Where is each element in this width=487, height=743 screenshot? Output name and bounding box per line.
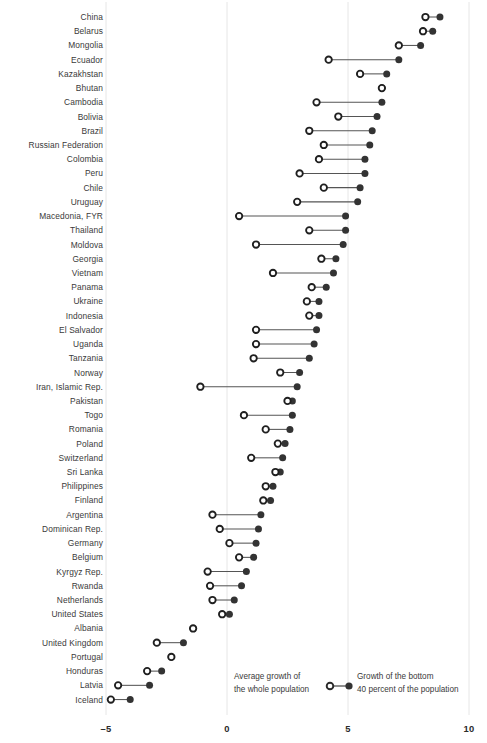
bottom40-growth-marker xyxy=(306,355,313,362)
average-growth-marker xyxy=(248,455,254,461)
category-label: Uganda xyxy=(73,339,103,349)
bottom40-growth-marker xyxy=(374,113,381,120)
category-label: Moldova xyxy=(71,240,103,250)
category-label: Vietnam xyxy=(72,268,103,278)
data-row xyxy=(144,668,165,675)
bottom40-growth-marker xyxy=(243,568,250,575)
bottom40-growth-marker xyxy=(357,184,364,191)
data-row xyxy=(277,369,303,376)
average-growth-marker xyxy=(190,625,196,631)
bottom40-growth-marker xyxy=(180,639,187,646)
data-row xyxy=(115,682,153,689)
data-row xyxy=(313,99,385,106)
legend-marker-group xyxy=(327,682,353,689)
data-row xyxy=(154,639,187,646)
category-label: Peru xyxy=(85,168,103,178)
category-label: Chile xyxy=(83,183,103,193)
bottom40-growth-marker xyxy=(294,383,301,390)
data-row xyxy=(309,284,330,291)
category-label: China xyxy=(81,12,103,22)
bottom40-growth-marker xyxy=(238,582,245,589)
average-growth-marker xyxy=(250,355,256,361)
data-row xyxy=(241,412,296,419)
data-row xyxy=(306,312,322,319)
average-growth-marker xyxy=(284,398,290,404)
bottom40-growth-marker xyxy=(383,70,390,77)
category-label: United States xyxy=(51,609,103,619)
average-growth-marker xyxy=(420,28,426,34)
category-label: Brazil xyxy=(81,126,103,136)
category-label: Belarus xyxy=(74,26,103,36)
category-label: Norway xyxy=(74,368,103,378)
category-label: El Salvador xyxy=(59,325,103,335)
bottom40-growth-marker xyxy=(267,497,274,504)
bottom40-growth-marker xyxy=(429,28,436,35)
category-label: Ecuador xyxy=(71,55,103,65)
average-growth-marker xyxy=(296,170,302,176)
category-label: Argentina xyxy=(66,510,103,520)
category-label: Cambodia xyxy=(64,97,103,107)
data-row xyxy=(270,269,337,276)
data-row xyxy=(253,241,347,248)
data-row xyxy=(207,582,245,589)
category-label: Macedonia, FYR xyxy=(39,211,103,221)
data-row xyxy=(197,383,300,390)
bottom40-growth-marker xyxy=(378,99,385,106)
average-growth-marker xyxy=(236,554,242,560)
category-label: Thailand xyxy=(70,225,103,235)
data-row xyxy=(253,326,320,333)
average-growth-marker xyxy=(236,213,242,219)
average-growth-marker xyxy=(304,298,310,304)
category-label: Kyrgyz Rep. xyxy=(56,567,103,577)
category-label: Georgia xyxy=(73,254,104,264)
average-growth-marker xyxy=(226,540,232,546)
data-row xyxy=(168,653,175,660)
category-label: Finland xyxy=(75,495,103,505)
bottom40-growth-marker xyxy=(255,525,262,532)
average-growth-marker xyxy=(335,113,341,119)
category-label: Iceland xyxy=(75,695,103,705)
average-growth-marker xyxy=(253,241,259,247)
bottom40-growth-marker xyxy=(269,483,276,490)
data-rows xyxy=(108,14,444,704)
average-growth-marker xyxy=(306,227,312,233)
category-label: Ukraine xyxy=(73,296,103,306)
category-label: Dominican Rep. xyxy=(42,524,103,534)
average-growth-marker xyxy=(260,497,266,503)
average-growth-marker xyxy=(313,99,319,105)
data-row xyxy=(325,56,402,63)
bottom40-growth-marker xyxy=(395,56,402,63)
x-tick-label: 5 xyxy=(345,723,350,734)
bottom40-growth-marker xyxy=(286,426,293,433)
bottom40-growth-marker xyxy=(436,14,443,21)
category-label: Iran, Islamic Rep. xyxy=(36,382,103,392)
bottom40-growth-marker xyxy=(369,127,376,134)
bottom40-growth-marker xyxy=(226,611,233,618)
average-growth-marker xyxy=(396,42,402,48)
average-growth-marker xyxy=(357,71,363,77)
bottom40-growth-marker xyxy=(257,511,264,518)
data-row xyxy=(108,696,134,703)
category-label: Honduras xyxy=(66,666,103,676)
category-label: Russian Federation xyxy=(29,140,103,150)
data-row xyxy=(422,14,443,21)
legend-right-line2: 40 percent of the population xyxy=(357,684,459,697)
data-row xyxy=(263,483,277,490)
category-label: Netherlands xyxy=(57,595,103,605)
category-label: Uruguay xyxy=(71,197,103,207)
average-growth-marker xyxy=(209,597,215,603)
data-row xyxy=(321,141,374,148)
data-row xyxy=(296,170,368,177)
x-tick-label: 10 xyxy=(464,723,475,734)
data-row xyxy=(420,28,436,35)
legend-left: Average growth of the whole population xyxy=(234,671,309,696)
average-growth-marker xyxy=(253,327,259,333)
data-row xyxy=(260,497,274,504)
category-label: Latvia xyxy=(80,680,103,690)
legend-filled-circle-icon xyxy=(345,682,352,689)
average-growth-marker xyxy=(263,483,269,489)
legend-left-line1: Average growth of xyxy=(234,671,309,684)
data-row xyxy=(209,511,264,518)
data-row xyxy=(272,469,284,476)
data-row xyxy=(316,156,369,163)
